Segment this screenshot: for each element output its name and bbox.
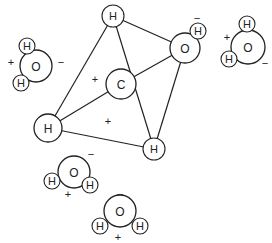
water-lower-left-hydrogen-2: H — [82, 177, 98, 193]
water-top-right-negative-charge: − — [262, 57, 268, 69]
water-top-left-oxygen-label: O — [31, 60, 40, 74]
charge-positive-0: + — [92, 73, 98, 85]
water-top-right-hydrogen-2: H — [221, 51, 237, 67]
water-bottom-hydrogen-2-label: H — [136, 220, 144, 232]
water-top-right-oxygen-label: O — [243, 41, 252, 55]
diagram-canvas: OHH+−OHH+−OHH+−OHH+− HCHHOH ++− — [0, 0, 272, 243]
water-bottom-hydrogen-1-label: H — [96, 220, 104, 232]
water-top-right-hydrogen-1-label: H — [243, 18, 251, 30]
water-top-left-hydrogen-1: H — [19, 38, 35, 54]
atom-o-center_h: H — [190, 23, 206, 39]
water-top-right-hydrogen-1: H — [239, 16, 255, 32]
water-top-right-positive-charge: + — [224, 31, 230, 43]
charge-negative-2: − — [194, 12, 200, 24]
water-lower-left-hydrogen-1: H — [44, 173, 60, 189]
water-lower-left-negative-charge: − — [88, 148, 94, 160]
water-top-right: OHH+− — [221, 16, 268, 69]
water-bottom-hydrogen-2: H — [132, 218, 148, 234]
water-bottom: OHH+− — [92, 188, 148, 243]
atom-h-top-label: H — [109, 10, 117, 22]
atom-c-label: C — [117, 78, 126, 92]
water-lower-left-positive-charge: + — [65, 188, 71, 200]
water-top-left-hydrogen-1-label: H — [23, 40, 31, 52]
water-top-left-hydrogen-2-label: H — [17, 77, 25, 89]
water-lower-left: OHH+− — [44, 148, 98, 200]
water-top-left: OHH+− — [8, 38, 64, 91]
water-top-left-negative-charge: − — [58, 56, 64, 68]
water-bottom-positive-charge: + — [115, 231, 121, 243]
atom-h-br: H — [143, 138, 165, 160]
water-bottom-negative-charge: − — [117, 188, 123, 200]
water-lower-left-oxygen-label: O — [69, 166, 78, 180]
water-top-right-hydrogen-2-label: H — [225, 53, 233, 65]
water-top-left-hydrogen-2: H — [13, 75, 29, 91]
water-top-left-positive-charge: + — [8, 56, 14, 68]
atoms-layer: HCHHOH — [34, 5, 206, 160]
atom-o-center-label: O — [180, 42, 189, 56]
atom-h-left: H — [34, 114, 62, 142]
water-lower-left-hydrogen-2-label: H — [86, 179, 94, 191]
water-lower-left-hydrogen-1-label: H — [48, 175, 56, 187]
charge-positive-1: + — [105, 115, 111, 127]
atom-h-br-label: H — [150, 143, 158, 155]
atom-h-left-label: H — [44, 122, 53, 136]
bond-H_top-H_left — [48, 16, 113, 128]
water-bottom-oxygen-label: O — [115, 205, 124, 219]
bond-H_left-H_br — [48, 128, 154, 149]
water-bottom-hydrogen-1: H — [92, 218, 108, 234]
atom-o-center_h-label: H — [194, 25, 202, 37]
methane-water-diagram: OHH+−OHH+−OHH+−OHH+− HCHHOH ++− — [0, 0, 272, 243]
atom-c: C — [106, 69, 136, 99]
atom-h-top: H — [102, 5, 124, 27]
